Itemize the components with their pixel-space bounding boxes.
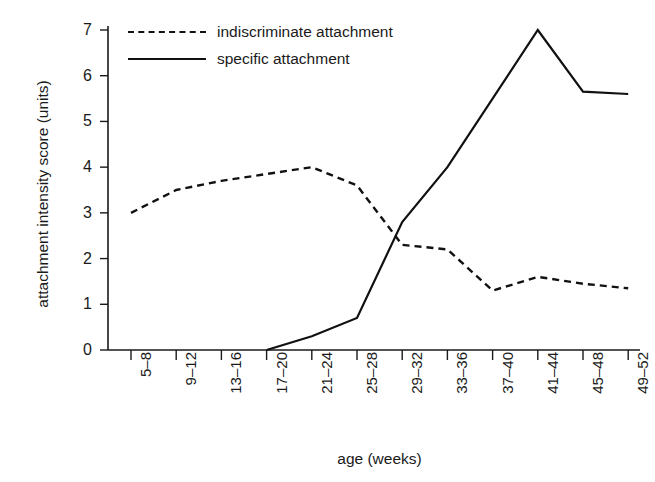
x-tick-label: 41–44 (545, 352, 560, 442)
data-series-layer (131, 30, 628, 350)
series-line-specific (267, 30, 629, 350)
x-tick-label: 21–24 (319, 352, 334, 442)
series-line-indiscriminate (131, 167, 628, 290)
x-tick-label: 17–20 (274, 352, 289, 442)
y-tick-label: 7 (62, 22, 92, 38)
x-tick-label: 29–32 (409, 352, 424, 442)
x-tick-label: 45–48 (590, 352, 605, 442)
axis-lines (108, 26, 640, 350)
y-tick-label: 1 (62, 296, 92, 312)
x-tick-label: 13–16 (228, 352, 243, 442)
legend-label: specific attachment (217, 50, 350, 68)
x-tick-label: 5–8 (138, 352, 153, 442)
x-axis-title: age (weeks) (131, 450, 628, 468)
y-tick-marks (100, 30, 108, 350)
x-tick-label: 25–28 (364, 352, 379, 442)
y-tick-label: 3 (62, 205, 92, 221)
x-tick-label: 9–12 (183, 352, 198, 442)
y-tick-label: 2 (62, 251, 92, 267)
x-tick-label: 33–36 (454, 352, 469, 442)
legend-item-0: indiscriminate attachment (128, 18, 393, 45)
y-tick-label: 6 (62, 68, 92, 84)
attachment-intensity-line-chart: attachment intensity score (units) 01234… (0, 0, 655, 482)
legend-swatch-dashed-icon (128, 31, 206, 33)
legend-swatch-solid-icon (128, 58, 206, 60)
legend-label: indiscriminate attachment (217, 23, 393, 41)
chart-legend: indiscriminate attachmentspecific attach… (128, 18, 393, 72)
legend-item-1: specific attachment (128, 45, 393, 72)
x-tick-label: 37–40 (500, 352, 515, 442)
x-tick-label: 49–52 (635, 352, 650, 442)
y-tick-label: 0 (62, 342, 92, 358)
y-axis-title: attachment intensity score (units) (34, 29, 52, 359)
y-tick-label: 5 (62, 113, 92, 129)
y-tick-label: 4 (62, 159, 92, 175)
